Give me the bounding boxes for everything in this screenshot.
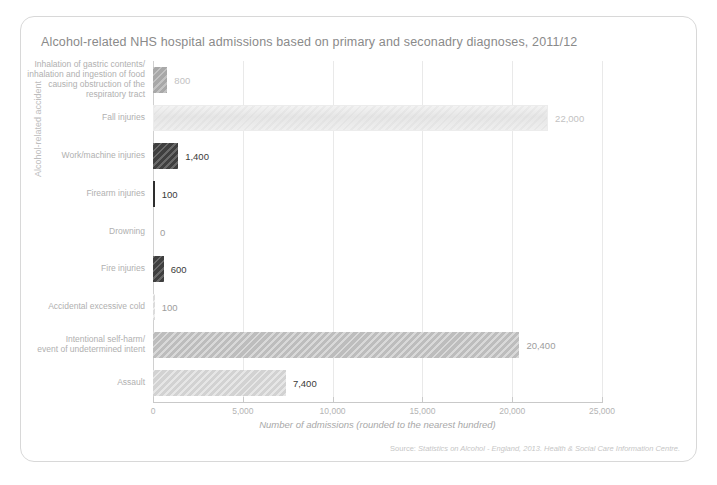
bar[interactable]	[153, 370, 286, 396]
bar-row[interactable]: 600	[153, 256, 602, 282]
bar-row[interactable]: 0	[153, 219, 602, 245]
bar[interactable]	[153, 105, 548, 131]
chart-figure-frame: Alcohol-related NHS hospital admissions …	[20, 16, 697, 462]
category-label: Firearm injuries	[0, 189, 145, 199]
source-note: Source: Statistics on Alcohol - England,…	[390, 444, 680, 453]
source-body: Statistics on Alcohol - England, 2013. H…	[418, 444, 680, 453]
bar-row[interactable]: 800	[153, 67, 602, 93]
x-tick-label: 15,000	[409, 406, 435, 416]
bar-row[interactable]: 1,400	[153, 143, 602, 169]
x-axis-line	[153, 402, 602, 403]
category-label: Assault	[0, 378, 145, 388]
bar[interactable]	[153, 143, 178, 169]
x-tick-label: 20,000	[499, 406, 525, 416]
bar-value-label: 22,000	[555, 112, 584, 123]
bar[interactable]	[153, 67, 167, 93]
bar-value-label: 20,400	[526, 340, 555, 351]
tick-mark	[333, 397, 334, 403]
bar-row[interactable]: 22,000	[153, 105, 602, 131]
tick-mark	[422, 397, 423, 403]
bar-row[interactable]: 100	[153, 294, 602, 320]
tick-mark	[243, 397, 244, 403]
bar[interactable]	[153, 294, 155, 320]
category-label: Accidental excessive cold	[0, 302, 145, 312]
x-tick-label: 0	[151, 406, 156, 416]
bar-row[interactable]: 100	[153, 181, 602, 207]
bar-value-label: 100	[162, 302, 178, 313]
chart-title: Alcohol-related NHS hospital admissions …	[41, 35, 577, 49]
tick-mark	[512, 397, 513, 403]
x-tick-label: 25,000	[589, 406, 615, 416]
bar-value-label: 1,400	[185, 150, 209, 161]
x-tick-label: 10,000	[320, 406, 346, 416]
category-label: Work/machine injuries	[0, 151, 145, 161]
bar-value-label: 800	[174, 74, 190, 85]
gridline	[602, 61, 603, 402]
category-label: Inhalation of gastric contents/ inhalati…	[0, 60, 145, 99]
x-axis-title: Number of admissions (rounded to the nea…	[153, 419, 602, 430]
bar-value-label: 600	[171, 264, 187, 275]
plot-area: 80022,0001,400100060010020,4007,400 05,0…	[153, 61, 602, 402]
tick-mark	[153, 397, 154, 403]
category-label: Intentional self-harm/ event of undeterm…	[0, 335, 145, 355]
bar-value-label: 0	[160, 226, 165, 237]
bar[interactable]	[153, 181, 155, 207]
bar[interactable]	[153, 256, 164, 282]
bar-value-label: 7,400	[293, 378, 317, 389]
bar[interactable]	[153, 332, 519, 358]
category-label: Fire injuries	[0, 264, 145, 274]
category-label: Fall injuries	[0, 113, 145, 123]
source-label: Source:	[390, 444, 416, 453]
bar-row[interactable]: 7,400	[153, 370, 602, 396]
tick-mark	[602, 397, 603, 403]
bar-row[interactable]: 20,400	[153, 332, 602, 358]
x-tick-label: 5,000	[232, 406, 253, 416]
category-label: Drowning	[0, 227, 145, 237]
bar-value-label: 100	[162, 188, 178, 199]
